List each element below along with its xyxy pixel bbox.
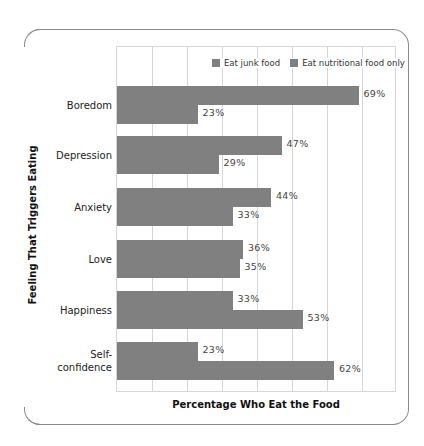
chart-frame-corner-top-left: [24, 29, 40, 47]
bar-junk: [117, 240, 243, 259]
legend-item-junk: Eat junk food: [211, 58, 281, 68]
gridline: [362, 47, 363, 391]
value-label: 36%: [248, 242, 270, 253]
bar-junk: [117, 86, 359, 105]
chart-frame-corner-bottom-left: [24, 407, 40, 425]
value-label: 53%: [308, 312, 330, 323]
legend-swatch-nutritional: [290, 59, 298, 67]
value-label: 35%: [245, 261, 267, 272]
category-label: Love: [88, 253, 112, 266]
y-axis-label: Feeling That Triggers Eating: [27, 145, 38, 304]
bar-nutritional: [117, 361, 334, 380]
legend-swatch-junk: [212, 59, 220, 67]
value-label: 47%: [287, 138, 309, 149]
plot-area: 69%23%47%29%44%33%36%35%33%53%23%62%: [116, 46, 396, 392]
value-label: 33%: [238, 293, 260, 304]
value-label: 69%: [364, 88, 386, 99]
category-label: Self- confidence: [57, 348, 112, 374]
bar-junk: [117, 291, 233, 310]
value-label: 33%: [238, 209, 260, 220]
legend: Eat junk food Eat nutritional food only: [211, 58, 414, 68]
bar-nutritional: [117, 105, 198, 124]
bar-nutritional: [117, 310, 303, 329]
value-label: 23%: [203, 107, 225, 118]
bar-junk: [117, 342, 198, 361]
category-label: Happiness: [60, 304, 112, 317]
value-label: 29%: [224, 157, 246, 168]
value-label: 62%: [339, 363, 361, 374]
legend-label-nutritional: Eat nutritional food only: [302, 58, 405, 68]
legend-item-nutritional: Eat nutritional food only: [289, 58, 406, 68]
x-axis-label: Percentage Who Eat the Food: [172, 399, 340, 410]
bar-junk: [117, 188, 271, 207]
bar-nutritional: [117, 259, 240, 278]
category-label: Anxiety: [74, 201, 112, 214]
legend-label-junk: Eat junk food: [224, 58, 280, 68]
bar-nutritional: [117, 207, 233, 226]
value-label: 23%: [203, 344, 225, 355]
value-label: 44%: [276, 190, 298, 201]
bar-nutritional: [117, 155, 219, 174]
category-label: Boredom: [67, 99, 112, 112]
category-label: Depression: [56, 149, 112, 162]
bar-junk: [117, 136, 282, 155]
